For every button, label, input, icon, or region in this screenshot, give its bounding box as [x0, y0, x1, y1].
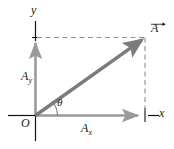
- vector-a-arrow: [36, 40, 143, 116]
- component-ax-label: Ax: [81, 122, 92, 137]
- vector-a-symbol: A: [151, 22, 158, 34]
- angle-theta-label: θ: [57, 97, 62, 108]
- component-ay-label: Ay: [21, 70, 32, 85]
- origin-label: O: [21, 117, 30, 129]
- component-ax-base: A: [81, 121, 88, 135]
- x-axis-label: x: [159, 107, 164, 119]
- y-axis-label: y: [31, 4, 36, 16]
- component-ay-subscript: y: [29, 76, 33, 85]
- vector-overbar-arrow-icon: [151, 22, 166, 27]
- vector-components-diagram: y x O θ Ay Ax A: [0, 0, 174, 149]
- component-ax-subscript: x: [89, 128, 93, 137]
- component-ay-base: A: [21, 69, 28, 83]
- vector-a-label: A: [151, 22, 158, 34]
